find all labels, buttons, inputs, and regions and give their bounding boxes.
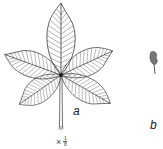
leaflet-lower-right [55, 65, 116, 114]
leaf-illustration [0, 0, 163, 149]
figure-label-a: a [73, 104, 80, 118]
scale-prefix: × [56, 137, 61, 147]
scale-indicator: × 1 8 [56, 136, 67, 147]
figure-label-b: b [150, 118, 157, 132]
leaflet-top [47, 3, 75, 75]
petiole [59, 76, 63, 129]
leaflet-upper-right [56, 39, 118, 86]
palmate-leaf-drawing [0, 0, 163, 149]
scale-denominator: 8 [64, 142, 67, 147]
partial-figure-b [150, 51, 157, 74]
scale-fraction: 1 8 [63, 136, 67, 147]
